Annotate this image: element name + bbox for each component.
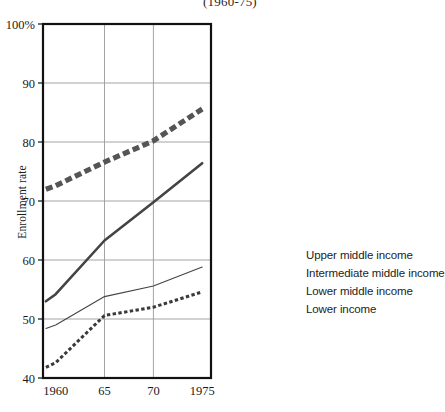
y-axis-title: Enrollment rate <box>16 147 28 257</box>
legend-swatch-lower-income <box>272 302 302 316</box>
legend-item-lower-income: Lower income <box>272 300 442 317</box>
series-line <box>46 109 202 189</box>
x-tick-label: 70 <box>147 384 160 398</box>
legend-label-lower-income: Lower income <box>306 303 376 315</box>
x-tick-label: 1975 <box>190 384 215 398</box>
legend-label-intermediate-middle-income: Intermediate middle income <box>306 267 445 279</box>
line-chart-svg: 100%908070605040 196065701975 <box>0 0 260 400</box>
legend-label-lower-middle-income: Lower middle income <box>306 285 413 297</box>
legend-item-lower-middle-income: Lower middle income <box>272 282 442 299</box>
y-tick-label: 50 <box>23 313 36 327</box>
series-line <box>46 163 202 301</box>
legend-swatch-intermediate-middle-income <box>272 266 302 280</box>
data-series-group <box>46 109 202 367</box>
legend-item-upper-middle-income: Upper middle income <box>272 246 442 263</box>
y-tick-label: 90 <box>23 77 36 91</box>
x-tick-label: 1960 <box>43 384 68 398</box>
legend-swatch-lower-middle-income <box>272 284 302 298</box>
legend-label-upper-middle-income: Upper middle income <box>306 249 413 261</box>
chart-legend: Upper middle income Intermediate middle … <box>272 246 442 318</box>
x-tick-label: 65 <box>98 384 111 398</box>
legend-swatch-upper-middle-income <box>272 248 302 262</box>
y-tick-label: 100% <box>6 18 35 32</box>
legend-item-intermediate-middle-income: Intermediate middle income <box>272 264 442 281</box>
series-line <box>46 292 202 368</box>
chart-plot-area: 100%908070605040 196065701975 Enrollment… <box>0 0 260 400</box>
y-tick-label: 40 <box>23 372 36 386</box>
grid-lines <box>43 24 211 378</box>
x-axis-tick-labels: 196065701975 <box>43 384 215 398</box>
